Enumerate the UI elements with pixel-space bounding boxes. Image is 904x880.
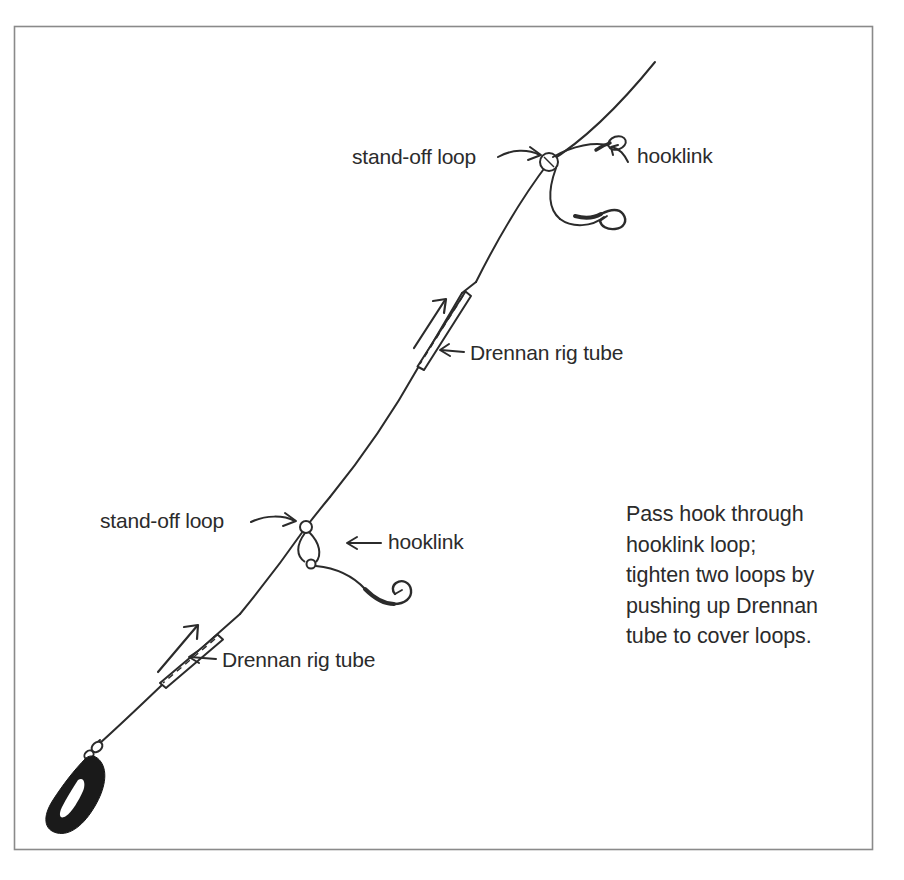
stand-off-loop-lower: [298, 521, 319, 569]
pointer-tube-upper: [440, 344, 464, 356]
label-stand-off-loop-upper: stand-off loop: [352, 145, 476, 168]
note-line-5: tube to cover loops.: [626, 624, 812, 648]
pointer-hooklink-lower: [347, 537, 381, 549]
note-line-2: hooklink loop;: [626, 533, 756, 557]
rig-tube-lower: [160, 635, 223, 689]
hooklink-lower: [316, 566, 365, 589]
rig-diagram: stand-off loop hooklink Drennan rig tube…: [0, 0, 904, 880]
rig-diagram-canvas: stand-off loop hooklink Drennan rig tube…: [0, 0, 904, 880]
label-hooklink-upper: hooklink: [637, 144, 713, 167]
note-line-4: pushing up Drennan: [626, 594, 818, 618]
note-line-3: tighten two loops by: [626, 563, 814, 587]
pointer-standoff-lower: [251, 513, 296, 526]
label-rig-tube-upper: Drennan rig tube: [470, 341, 623, 364]
label-hooklink-lower: hooklink: [388, 530, 464, 553]
instruction-note: Pass hook through hooklink loop; tighten…: [626, 502, 818, 648]
main-line-under-tubes: [163, 293, 462, 684]
pointer-standoff-upper: [498, 147, 541, 160]
lead-weight: [46, 756, 105, 834]
label-stand-off-loop-lower: stand-off loop: [100, 509, 224, 532]
hook-lower: [365, 581, 411, 604]
note-line-1: Pass hook through: [626, 502, 804, 526]
label-rig-tube-lower: Drennan rig tube: [222, 648, 375, 671]
